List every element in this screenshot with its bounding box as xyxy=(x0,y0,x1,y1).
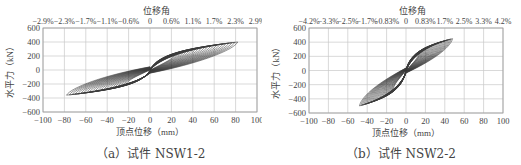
svg-text:−400: −400 xyxy=(288,94,306,104)
svg-text:−600: −600 xyxy=(22,107,40,117)
svg-text:−0.83%: −0.83% xyxy=(374,17,400,26)
svg-text:100: 100 xyxy=(497,116,510,126)
svg-text:−600: −600 xyxy=(288,108,306,118)
top-axis-label: 位移角 xyxy=(143,5,170,16)
svg-text:0.6%: 0.6% xyxy=(163,17,180,26)
hysteresis-chart-a: −100−80−60−40−200204060801006004002000−2… xyxy=(0,0,262,140)
svg-text:−80: −80 xyxy=(322,116,335,126)
svg-text:−3.3%: −3.3% xyxy=(318,17,340,26)
svg-text:400: 400 xyxy=(293,37,306,47)
svg-text:3.3%: 3.3% xyxy=(475,17,492,26)
svg-text:−0.6%: −0.6% xyxy=(118,17,140,26)
svg-text:−200: −200 xyxy=(288,80,306,90)
svg-text:0: 0 xyxy=(404,116,408,126)
svg-text:1.7%: 1.7% xyxy=(206,17,223,26)
svg-text:20: 20 xyxy=(167,115,176,125)
svg-text:80: 80 xyxy=(479,116,488,126)
svg-text:−60: −60 xyxy=(79,115,92,125)
caption-b-text: （b）试件 NSW2-2 xyxy=(346,147,456,161)
y-axis-label: 水平力（kN） xyxy=(4,42,15,98)
svg-text:0: 0 xyxy=(302,66,306,76)
svg-text:−2.9%: −2.9% xyxy=(32,17,54,26)
x-axis-label: 顶点位移（mm） xyxy=(116,126,184,137)
svg-text:2.5%: 2.5% xyxy=(456,17,473,26)
svg-text:−200: −200 xyxy=(22,79,40,89)
svg-text:−1.1%: −1.1% xyxy=(97,17,119,26)
caption-b: （b）试件 NSW2-2 xyxy=(346,144,456,161)
svg-text:2.3%: 2.3% xyxy=(227,17,244,26)
svg-text:−4.2%: −4.2% xyxy=(298,17,320,26)
x-tick-labels: −100−80−60−40−20020406080100 xyxy=(34,115,262,125)
svg-text:400: 400 xyxy=(27,37,40,47)
caption-a: （a）试件 NSW1-2 xyxy=(96,144,205,161)
svg-text:−20: −20 xyxy=(122,115,135,125)
svg-text:−40: −40 xyxy=(101,115,114,125)
svg-text:0: 0 xyxy=(148,115,152,125)
hysteresis-chart-b: −100−80−60−40−200204060801006004002000−2… xyxy=(262,0,521,140)
caption-a-text: （a）试件 NSW1-2 xyxy=(96,147,205,161)
svg-text:0: 0 xyxy=(36,65,40,75)
svg-text:−80: −80 xyxy=(58,115,71,125)
top-tick-labels: −4.2%−3.3%−2.5%−1.7%−0.83%00.83%1.7%2.5%… xyxy=(298,17,511,26)
svg-text:60: 60 xyxy=(460,116,469,126)
x-axis-label: 顶点位移（mm） xyxy=(372,127,440,138)
svg-text:0: 0 xyxy=(404,17,408,26)
hysteresis-loops xyxy=(67,42,238,95)
chart-panel-a: −100−80−60−40−200204060801006004002000−2… xyxy=(0,0,262,165)
svg-text:100: 100 xyxy=(251,115,262,125)
y-tick-labels: 6004002000−200−400−600 xyxy=(22,23,40,117)
svg-text:−40: −40 xyxy=(361,116,374,126)
x-tick-labels: −100−80−60−40−20020406080100 xyxy=(300,116,509,126)
top-axis-label: 位移角 xyxy=(399,5,426,16)
y-axis-label: 水平力（kN） xyxy=(270,43,281,99)
svg-text:−1.7%: −1.7% xyxy=(75,17,97,26)
svg-text:40: 40 xyxy=(441,116,450,126)
top-tick-labels: −2.9%−2.3%−1.7%−1.1%−0.6%00.6%1.1%1.7%2.… xyxy=(32,17,262,26)
svg-text:−400: −400 xyxy=(22,93,40,103)
svg-text:4.2%: 4.2% xyxy=(495,17,512,26)
svg-text:20: 20 xyxy=(421,116,430,126)
svg-text:0: 0 xyxy=(148,17,152,26)
svg-text:−2.5%: −2.5% xyxy=(337,17,359,26)
svg-text:−20: −20 xyxy=(380,116,393,126)
svg-text:80: 80 xyxy=(231,115,240,125)
svg-text:−60: −60 xyxy=(341,116,354,126)
svg-text:0.83%: 0.83% xyxy=(415,17,436,26)
svg-text:2.9%: 2.9% xyxy=(249,17,262,26)
chart-panel-b: −100−80−60−40−200204060801006004002000−2… xyxy=(262,0,521,165)
svg-text:1.7%: 1.7% xyxy=(436,17,453,26)
svg-text:200: 200 xyxy=(27,51,40,61)
svg-text:60: 60 xyxy=(210,115,219,125)
y-tick-labels: 6004002000−200−400−600 xyxy=(288,23,306,118)
svg-text:−2.3%: −2.3% xyxy=(54,17,76,26)
svg-text:1.1%: 1.1% xyxy=(184,17,201,26)
svg-text:40: 40 xyxy=(189,115,198,125)
svg-text:200: 200 xyxy=(293,51,306,61)
